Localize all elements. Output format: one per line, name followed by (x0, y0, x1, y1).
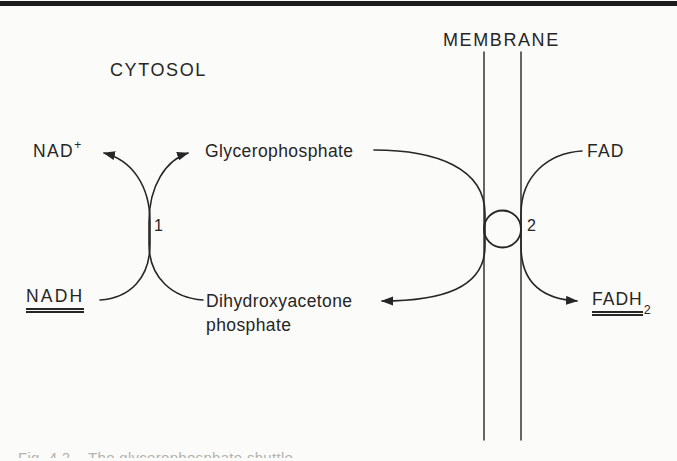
membrane-label: MEMBRANE (443, 31, 560, 51)
fadh2-label: FADH2 (592, 290, 650, 316)
dhap-line2: phosphate (206, 313, 352, 337)
cytosol-label: CYTOSOL (110, 61, 207, 81)
cropped-caption: Fig. 4.2 The glycerophosphate shuttle (18, 449, 293, 458)
nad-plus-label: NAD+ (33, 140, 81, 161)
fadh2-subscript: 2 (644, 303, 651, 317)
nad-superscript: + (74, 138, 81, 152)
nadh-text: NADH (26, 287, 84, 313)
shuttle-diagram-art (0, 0, 677, 461)
dhap-line1: Dihydroxyacetone (206, 289, 352, 313)
nad-text: NAD (33, 141, 74, 161)
top-rule (0, 1, 677, 6)
glycerophosphate-to-dhap-curve (374, 150, 485, 301)
reaction2-number: 2 (527, 217, 536, 235)
reaction1-number: 1 (154, 217, 163, 235)
nadh-label: NADH (26, 287, 84, 313)
enzyme-circle (484, 211, 521, 248)
nadh-to-nad-curve (100, 153, 150, 300)
fad-label: FAD (587, 142, 625, 161)
dhap-label: Dihydroxyacetonephosphate (206, 289, 352, 337)
figure-page: CYTOSOL MEMBRANE NAD+ Glycerophosphate N… (0, 0, 677, 461)
glycerophosphate-label: Glycerophosphate (205, 142, 353, 161)
fadh2-text: FADH (592, 290, 643, 316)
